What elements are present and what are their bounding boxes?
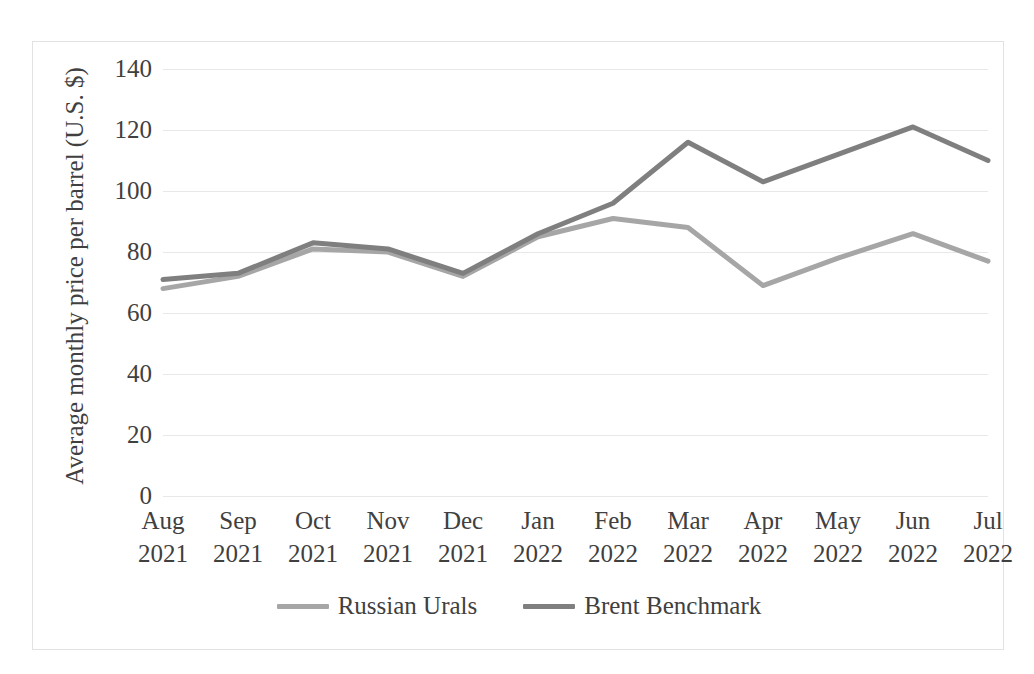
x-tick-month: Mar bbox=[663, 504, 713, 537]
legend-label: Russian Urals bbox=[338, 592, 478, 620]
y-tick-label: 20 bbox=[127, 421, 152, 449]
y-tick-label: 140 bbox=[115, 55, 153, 83]
x-tick-label: Jul2022 bbox=[963, 504, 1013, 570]
x-tick-label: Jun2022 bbox=[888, 504, 938, 570]
y-axis-title: Average monthly price per barrel (U.S. $… bbox=[61, 26, 89, 526]
x-tick-month: Aug bbox=[138, 504, 188, 537]
x-tick-year: 2022 bbox=[813, 537, 863, 570]
x-tick-label: Oct2021 bbox=[288, 504, 338, 570]
x-tick-month: Dec bbox=[438, 504, 488, 537]
x-tick-year: 2022 bbox=[663, 537, 713, 570]
legend-item-brent-benchmark[interactable]: Brent Benchmark bbox=[523, 592, 761, 620]
x-tick-month: Jun bbox=[888, 504, 938, 537]
x-tick-label: Nov2021 bbox=[363, 504, 413, 570]
plot-area: 020406080100120140 bbox=[163, 69, 988, 496]
x-tick-month: Jul bbox=[963, 504, 1013, 537]
legend-label: Brent Benchmark bbox=[584, 592, 761, 620]
legend-line-icon bbox=[277, 604, 329, 609]
x-tick-month: Apr bbox=[738, 504, 788, 537]
x-tick-month: Jan bbox=[513, 504, 563, 537]
x-tick-label: Apr2022 bbox=[738, 504, 788, 570]
x-tick-year: 2022 bbox=[963, 537, 1013, 570]
x-tick-year: 2022 bbox=[888, 537, 938, 570]
x-tick-month: Sep bbox=[213, 504, 263, 537]
x-tick-month: Feb bbox=[588, 504, 638, 537]
legend-line-icon bbox=[523, 604, 575, 609]
legend-item-russian-urals[interactable]: Russian Urals bbox=[277, 592, 478, 620]
x-tick-month: May bbox=[813, 504, 863, 537]
plot-svg bbox=[163, 69, 988, 496]
x-tick-year: 2021 bbox=[363, 537, 413, 570]
gridlines-group bbox=[163, 69, 988, 496]
x-tick-labels: Aug2021Sep2021Oct2021Nov2021Dec2021Jan20… bbox=[163, 504, 988, 578]
x-tick-month: Nov bbox=[363, 504, 413, 537]
x-tick-month: Oct bbox=[288, 504, 338, 537]
x-tick-year: 2022 bbox=[738, 537, 788, 570]
x-tick-label: Sep2021 bbox=[213, 504, 263, 570]
series-group bbox=[163, 127, 988, 289]
chart-legend: Russian UralsBrent Benchmark bbox=[33, 592, 1005, 620]
chart-figure: Average monthly price per barrel (U.S. $… bbox=[32, 41, 1004, 650]
y-tick-label: 100 bbox=[115, 177, 153, 205]
y-tick-label: 80 bbox=[127, 238, 152, 266]
y-tick-label: 40 bbox=[127, 360, 152, 388]
x-tick-label: Dec2021 bbox=[438, 504, 488, 570]
x-tick-year: 2022 bbox=[513, 537, 563, 570]
x-tick-label: Aug2021 bbox=[138, 504, 188, 570]
x-tick-label: Jan2022 bbox=[513, 504, 563, 570]
x-tick-label: Mar2022 bbox=[663, 504, 713, 570]
y-tick-label: 120 bbox=[115, 116, 153, 144]
x-tick-label: Feb2022 bbox=[588, 504, 638, 570]
x-tick-year: 2022 bbox=[588, 537, 638, 570]
x-tick-label: May2022 bbox=[813, 504, 863, 570]
x-tick-year: 2021 bbox=[288, 537, 338, 570]
y-tick-label: 60 bbox=[127, 299, 152, 327]
x-tick-year: 2021 bbox=[213, 537, 263, 570]
x-tick-year: 2021 bbox=[438, 537, 488, 570]
x-tick-year: 2021 bbox=[138, 537, 188, 570]
